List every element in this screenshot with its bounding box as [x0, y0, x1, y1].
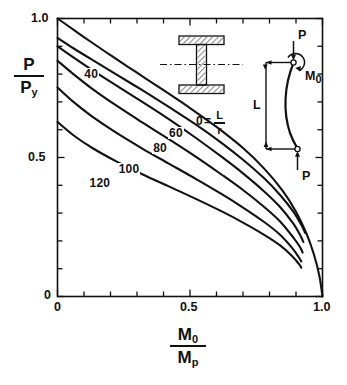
- bottom-flange-hatch: [180, 86, 223, 93]
- y-axis-denominator: Py: [18, 79, 39, 96]
- plot-frame: [58, 19, 323, 297]
- bottom-pin-node: [295, 146, 300, 151]
- x-tick-label-0: 0: [54, 301, 61, 314]
- x-tick-label-0.5: 0.5: [180, 301, 198, 314]
- curve-label-60: 60: [168, 127, 184, 139]
- interaction-diagram-figure: 1.0 0.5 0 0 0.5 1.0 P Py M0 Mp 406080100…: [0, 0, 347, 385]
- deflected-column-diagram: [263, 41, 305, 170]
- i-beam-cross-section-inset: [160, 36, 243, 94]
- slenderness-key-prefix: 0: [196, 114, 203, 128]
- y-tick-label-0: 0: [44, 289, 51, 302]
- y-axis-numerator: P: [21, 56, 36, 73]
- x-axis-numerator: M0: [176, 326, 200, 343]
- column-top-load-label: P: [298, 28, 306, 42]
- axis-ticks: [58, 19, 323, 297]
- column-bottom-load-label: P: [302, 169, 310, 183]
- y-axis-fraction-bar: [14, 75, 44, 77]
- slenderness-key-numerator: L: [216, 110, 223, 121]
- curve-0: [58, 19, 323, 297]
- curve-label-100: 100: [118, 163, 141, 175]
- curve-120: [58, 122, 302, 268]
- length-arrowhead-top: [263, 65, 268, 70]
- curve-label-40: 40: [83, 68, 99, 80]
- slenderness-key-equals: =: [204, 114, 211, 128]
- deflected-column-shape: [285, 63, 297, 149]
- slenderness-key-fraction: L r: [214, 110, 225, 136]
- bottom-load-arrowhead: [295, 151, 300, 157]
- x-axis-fraction-bar: [170, 345, 206, 347]
- column-length-label: L: [253, 98, 261, 112]
- y-tick-label-0.5: 0.5: [28, 151, 46, 164]
- curve-label-80: 80: [152, 142, 168, 154]
- top-pin-node: [291, 60, 296, 65]
- x-tick-label-1.0: 1.0: [313, 301, 331, 314]
- y-axis-title: P Py: [14, 56, 44, 96]
- top-flange-hatch: [180, 37, 223, 44]
- dim-tick-bottom: [266, 147, 272, 151]
- web-hatch: [198, 44, 206, 86]
- dim-tick-top: [266, 60, 272, 64]
- top-load-arrowhead: [291, 55, 296, 61]
- curve-label-120: 120: [89, 177, 112, 189]
- x-axis-title: M0 Mp: [170, 326, 206, 366]
- data-curves: [58, 19, 323, 297]
- x-axis-denominator: Mp: [176, 349, 201, 366]
- y-tick-label-1.0: 1.0: [31, 12, 49, 25]
- length-arrowhead-bottom: [264, 142, 269, 147]
- slenderness-key-denominator: r: [217, 125, 221, 136]
- column-moment-label: M0: [305, 69, 322, 83]
